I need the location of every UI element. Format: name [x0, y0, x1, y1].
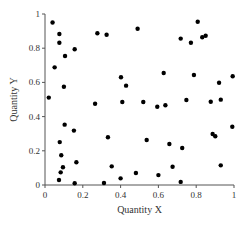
data-point [217, 81, 221, 85]
data-point [119, 75, 123, 79]
x-axis-title: Quantity X [117, 204, 162, 215]
data-point [58, 170, 62, 174]
data-point [62, 84, 66, 88]
data-points [47, 19, 235, 185]
data-point [230, 124, 234, 128]
data-point [184, 98, 188, 102]
data-point [104, 32, 108, 36]
data-point [72, 128, 76, 132]
data-point [110, 164, 114, 168]
data-point [179, 180, 183, 184]
data-point [213, 134, 217, 138]
data-point [192, 73, 196, 77]
data-point [167, 142, 171, 146]
data-point [93, 102, 97, 106]
x-tick-label: 0.2 [77, 190, 88, 200]
data-point [203, 34, 207, 38]
x-tick-label: 0.8 [191, 190, 203, 200]
data-point [141, 100, 145, 104]
data-point [134, 171, 138, 175]
data-point [170, 165, 174, 169]
x-tick-label: 0.6 [153, 190, 165, 200]
y-ticks: 00.20.40.60.81 [29, 9, 45, 190]
data-point [63, 54, 67, 58]
data-point [155, 104, 159, 108]
data-point [74, 160, 78, 164]
data-point [118, 176, 122, 180]
data-point [50, 20, 54, 24]
x-tick-label: 1 [232, 190, 237, 200]
x-ticks: 00.20.40.60.81 [43, 185, 237, 200]
x-tick-label: 0 [43, 190, 48, 200]
data-point [156, 173, 160, 177]
data-point [144, 138, 148, 142]
x-axis: 00.20.40.60.81 Quantity X [43, 185, 237, 215]
data-point [124, 83, 128, 87]
data-point [102, 181, 106, 185]
y-tick-label: 0.8 [29, 43, 41, 53]
data-point [230, 74, 234, 78]
data-point [161, 71, 165, 75]
data-point [52, 65, 56, 69]
data-point [196, 19, 200, 23]
y-tick-label: 1 [36, 9, 41, 19]
data-point [58, 140, 62, 144]
data-point [72, 47, 76, 51]
data-point [120, 100, 124, 104]
data-point [57, 178, 61, 182]
data-point [95, 31, 99, 35]
data-point [106, 135, 110, 139]
x-tick-label: 0.4 [115, 190, 127, 200]
data-point [59, 153, 63, 157]
data-point [135, 27, 139, 31]
data-point [189, 41, 193, 45]
y-axis: 00.20.40.60.81 Quantity Y [8, 9, 45, 190]
data-point [179, 36, 183, 40]
data-point [47, 95, 51, 99]
data-point [219, 163, 223, 167]
y-tick-label: 0.6 [29, 77, 41, 87]
y-tick-label: 0.4 [29, 112, 41, 122]
data-point [219, 97, 223, 101]
data-point [72, 181, 76, 185]
y-tick-label: 0.2 [29, 146, 40, 156]
data-point [61, 165, 65, 169]
data-point [57, 41, 61, 45]
y-tick-label: 0 [36, 180, 41, 190]
y-axis-title: Quantity Y [8, 77, 19, 121]
data-point [163, 103, 167, 107]
data-point [180, 146, 184, 150]
data-point [62, 122, 66, 126]
data-point [209, 100, 213, 104]
data-point [57, 32, 61, 36]
scatter-chart: 00.20.40.60.81 Quantity X 00.20.40.60.81… [0, 0, 247, 228]
